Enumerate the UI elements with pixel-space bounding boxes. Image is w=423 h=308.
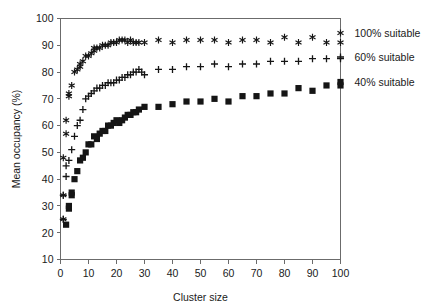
data-point: [71, 133, 78, 140]
y-tick-label: 70: [42, 93, 54, 105]
data-point: [63, 130, 69, 137]
legend-marker-plus: [337, 54, 344, 61]
data-point: [66, 203, 72, 209]
data-point: [183, 63, 190, 70]
data-point: [211, 36, 217, 43]
data-point: [225, 98, 231, 104]
data-point: [102, 128, 108, 134]
data-point: [239, 93, 245, 99]
data-point: [323, 39, 329, 46]
x-tick-label: 90: [307, 267, 319, 279]
data-point: [267, 90, 273, 96]
data-point: [66, 90, 72, 97]
data-point: [141, 104, 147, 110]
data-point: [267, 58, 274, 65]
data-point: [309, 55, 316, 62]
data-point: [71, 176, 77, 182]
data-point: [155, 104, 161, 110]
data-point: [253, 36, 259, 43]
data-point: [267, 39, 273, 46]
data-point: [295, 85, 301, 91]
data-point: [211, 61, 218, 68]
data-point: [281, 34, 287, 41]
data-point: [323, 55, 330, 62]
data-point: [197, 98, 203, 104]
data-point: [197, 63, 204, 70]
y-tick-label: 80: [42, 66, 54, 78]
y-tick-label: 20: [42, 227, 54, 239]
data-point: [63, 117, 69, 124]
x-tick-label: 40: [167, 267, 179, 279]
x-tick-label: 10: [83, 267, 95, 279]
data-point: [141, 39, 147, 46]
data-point: [225, 63, 232, 70]
legend-label: 40% suitable: [355, 76, 415, 88]
legend-marker-asterisk: [337, 30, 343, 37]
data-point: [169, 39, 175, 46]
chart-container: 1020304050607080901000102030405060708090…: [0, 0, 423, 308]
data-point: [94, 136, 100, 142]
data-point: [68, 146, 75, 153]
data-point: [309, 34, 315, 41]
y-tick-label: 50: [42, 146, 54, 158]
data-point: [169, 66, 176, 73]
data-point: [136, 106, 142, 112]
y-axis-title: Mean occupancy (%): [10, 90, 22, 189]
x-tick-label: 100: [332, 267, 350, 279]
data-point: [74, 168, 80, 174]
x-tick-label: 50: [195, 267, 207, 279]
data-point: [155, 36, 161, 43]
x-tick-label: 70: [251, 267, 263, 279]
data-point: [183, 98, 189, 104]
data-point: [295, 39, 301, 46]
series-square: [63, 82, 344, 227]
data-point: [239, 61, 246, 68]
data-point: [211, 96, 217, 102]
data-point: [281, 58, 288, 65]
data-point: [197, 36, 203, 43]
data-point: [309, 88, 315, 94]
data-point: [63, 173, 70, 180]
x-tick-label: 60: [223, 267, 235, 279]
data-point: [88, 141, 94, 147]
data-point: [80, 155, 86, 161]
data-point: [253, 93, 259, 99]
data-point: [323, 82, 329, 88]
data-point: [63, 222, 69, 228]
y-tick-label: 100: [36, 12, 54, 24]
y-tick-label: 60: [42, 119, 54, 131]
data-point: [253, 61, 260, 68]
y-tick-label: 10: [42, 253, 54, 265]
data-point: [155, 66, 162, 73]
x-tick-label: 80: [279, 267, 291, 279]
legend-label: 100% suitable: [355, 27, 421, 39]
data-point: [183, 36, 189, 43]
data-point: [225, 39, 231, 46]
y-tick-label: 40: [42, 173, 54, 185]
data-point: [239, 36, 245, 43]
series-plus: [60, 55, 344, 223]
data-point: [83, 149, 89, 155]
y-tick-label: 90: [42, 39, 54, 51]
data-point: [337, 39, 343, 46]
legend-label: 60% suitable: [355, 51, 415, 63]
x-tick-label: 20: [111, 267, 123, 279]
x-tick-label: 30: [139, 267, 151, 279]
y-tick-label: 30: [42, 200, 54, 212]
data-point: [281, 90, 287, 96]
x-tick-label: 0: [58, 267, 64, 279]
data-point: [69, 82, 75, 89]
x-axis-title: Cluster size: [173, 291, 228, 303]
data-point: [169, 101, 175, 107]
data-point: [79, 106, 86, 113]
legend-marker-square: [337, 79, 343, 85]
data-point: [69, 189, 75, 195]
data-point: [295, 58, 302, 65]
scatter-plot: 1020304050607080901000102030405060708090…: [0, 0, 423, 308]
